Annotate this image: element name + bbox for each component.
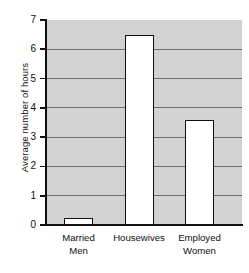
y-tick-label: 4	[14, 103, 36, 113]
y-tick-label: 0	[14, 220, 36, 230]
y-tick-mark	[40, 107, 46, 109]
x-axis-category-label: Employed Women	[160, 231, 240, 257]
bar-chart: Average number of hours 76543210 Married…	[0, 0, 249, 273]
y-tick-mark	[40, 166, 46, 168]
y-tick-label: 2	[14, 161, 36, 171]
y-tick-mark	[40, 48, 46, 50]
y-tick-label: 6	[14, 44, 36, 54]
y-tick-mark	[40, 224, 46, 226]
y-tick-mark	[40, 136, 46, 138]
y-axis-title: Average number of hours	[19, 28, 30, 208]
y-tick-label: 5	[14, 74, 36, 84]
y-tick-mark	[40, 19, 46, 21]
y-tick-label: 7	[14, 15, 36, 25]
y-tick-mark	[40, 78, 46, 80]
x-axis-line	[45, 224, 243, 226]
y-tick-label: 3	[14, 132, 36, 142]
plot-area	[46, 20, 242, 225]
y-tick-mark	[40, 195, 46, 197]
bar[interactable]	[125, 35, 154, 225]
y-tick-label: 1	[14, 191, 36, 201]
bar[interactable]	[185, 120, 214, 225]
